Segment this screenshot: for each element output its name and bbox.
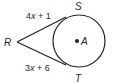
tangent-diagram: R S T A 4x + 1 3x + 6 xyxy=(0,0,116,84)
label-r: R xyxy=(4,37,11,48)
label-t: T xyxy=(75,73,82,84)
expr-rt: 3x + 6 xyxy=(25,63,50,73)
label-s: S xyxy=(75,1,82,12)
expr-rs: 4x + 1 xyxy=(26,11,51,21)
segment-rt xyxy=(17,42,66,65)
center-point-a xyxy=(75,39,79,43)
label-a: A xyxy=(80,36,88,47)
